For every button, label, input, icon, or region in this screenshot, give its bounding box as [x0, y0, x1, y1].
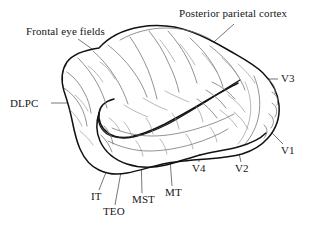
- label-mt: MT: [165, 186, 182, 198]
- label-it: IT: [91, 190, 102, 202]
- label-v1: V1: [281, 144, 295, 156]
- label-v4: V4: [192, 162, 206, 174]
- label-v2: V2: [235, 162, 249, 174]
- label-teo: TEO: [103, 205, 125, 217]
- label-dlpc: DLPC: [10, 97, 39, 109]
- label-mst: MST: [132, 193, 155, 205]
- brain-diagram-figure: Frontal eye fields Posterior parietal co…: [0, 0, 311, 229]
- label-frontal-eye-fields: Frontal eye fields: [26, 25, 105, 37]
- label-v3: V3: [281, 72, 295, 84]
- cerebrum-outline: [62, 26, 279, 174]
- label-posterior-parietal-cortex: Posterior parietal cortex: [179, 7, 287, 19]
- brain-outline-group: [62, 26, 279, 174]
